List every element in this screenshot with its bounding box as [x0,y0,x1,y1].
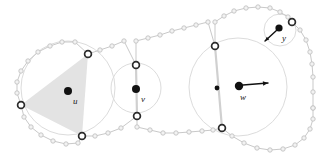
boundary-vertex [304,38,308,42]
boundary-vertex [93,134,97,138]
boundary-vertex [298,28,302,32]
boundary-vertex [51,139,55,143]
boundary-vertex [106,131,110,135]
boundary-vertex [268,6,272,10]
boundary-vertex [244,6,248,10]
vertex-mid-bottom [134,113,141,120]
boundary-vertex [200,129,204,133]
boundary-vertex [76,141,80,145]
boundary-vertex [60,40,64,44]
boundary-vertex [222,14,226,18]
boundary-vertex [110,44,114,48]
boundary-vertex [26,59,30,63]
arrow-layer [243,30,277,86]
boundary-vertex [98,48,102,52]
boundary-vertex [158,33,162,37]
boundary-vertex [311,75,315,79]
boundary-vertex [22,115,26,119]
figure-canvas [0,0,321,155]
vertex-upper-right [212,43,219,50]
boundary-vertex [293,143,297,147]
boundary-vertex [135,125,139,129]
boundary-vertex [311,117,315,121]
vertex-y-top [289,19,296,26]
geometric-figure: u v w y [0,0,321,155]
marker-point-w [235,82,243,90]
boundary-vertex [119,126,123,130]
shaded-triangle-u [21,54,88,136]
point-label-v: v [141,95,145,104]
boundary-vertex [308,127,312,131]
boundary-vertex [310,62,314,66]
boundary-vertex [232,9,236,13]
boundary-vertex [187,130,191,134]
vertex-left [18,102,25,109]
point-label-w: w [240,93,246,102]
boundary-vertex [15,91,19,95]
boundary-vertex [255,146,259,150]
boundary-vertex [311,90,315,94]
boundary-vertex [308,50,312,54]
chord-layer [136,46,222,128]
boundary-vertex [146,36,150,40]
vertex-lower-right [219,125,226,132]
vertex-lower-left [79,133,86,140]
boundary-vertex [242,141,246,145]
w-vector [243,81,268,85]
boundary-vertex [148,128,152,132]
boundary-vertex [134,39,138,43]
point-label-y: y [282,34,286,43]
boundary-vertex [211,128,215,132]
y-vector [265,30,277,41]
boundary-vertex [230,134,234,138]
boundary-vertex [311,106,315,110]
boundary-vertex [281,147,285,151]
boundary-vertex [73,40,77,44]
boundary-vertex [302,136,306,140]
vertex-upper-left [85,51,92,58]
point-label-u: u [73,97,78,106]
boundary-vertex [29,125,33,129]
boundary-vertex [170,29,174,33]
marker-point-v [132,85,140,93]
vertex-mid-top [133,62,140,69]
boundary-vertex [182,26,186,30]
boundary-vertex [39,133,43,137]
marker-point-w-secondary [215,86,220,91]
boundary-vertex [19,69,23,73]
marker-point-u [64,87,72,95]
boundary-vertex [268,148,272,152]
boundary-vertex [48,44,52,48]
boundary-vertex [194,23,198,27]
boundary-vertex [64,142,68,146]
boundary-vertex [15,80,19,84]
boundary-vertex [161,131,165,135]
boundary-vertex [174,131,178,135]
shaded-triangle-layer [21,54,88,136]
boundary-vertex [278,10,282,14]
boundary-vertex [256,5,260,9]
boundary-vertex [213,20,217,24]
boundary-vertex [122,39,126,43]
boundary-vertex [36,50,40,54]
boundary-vertex [206,20,210,24]
